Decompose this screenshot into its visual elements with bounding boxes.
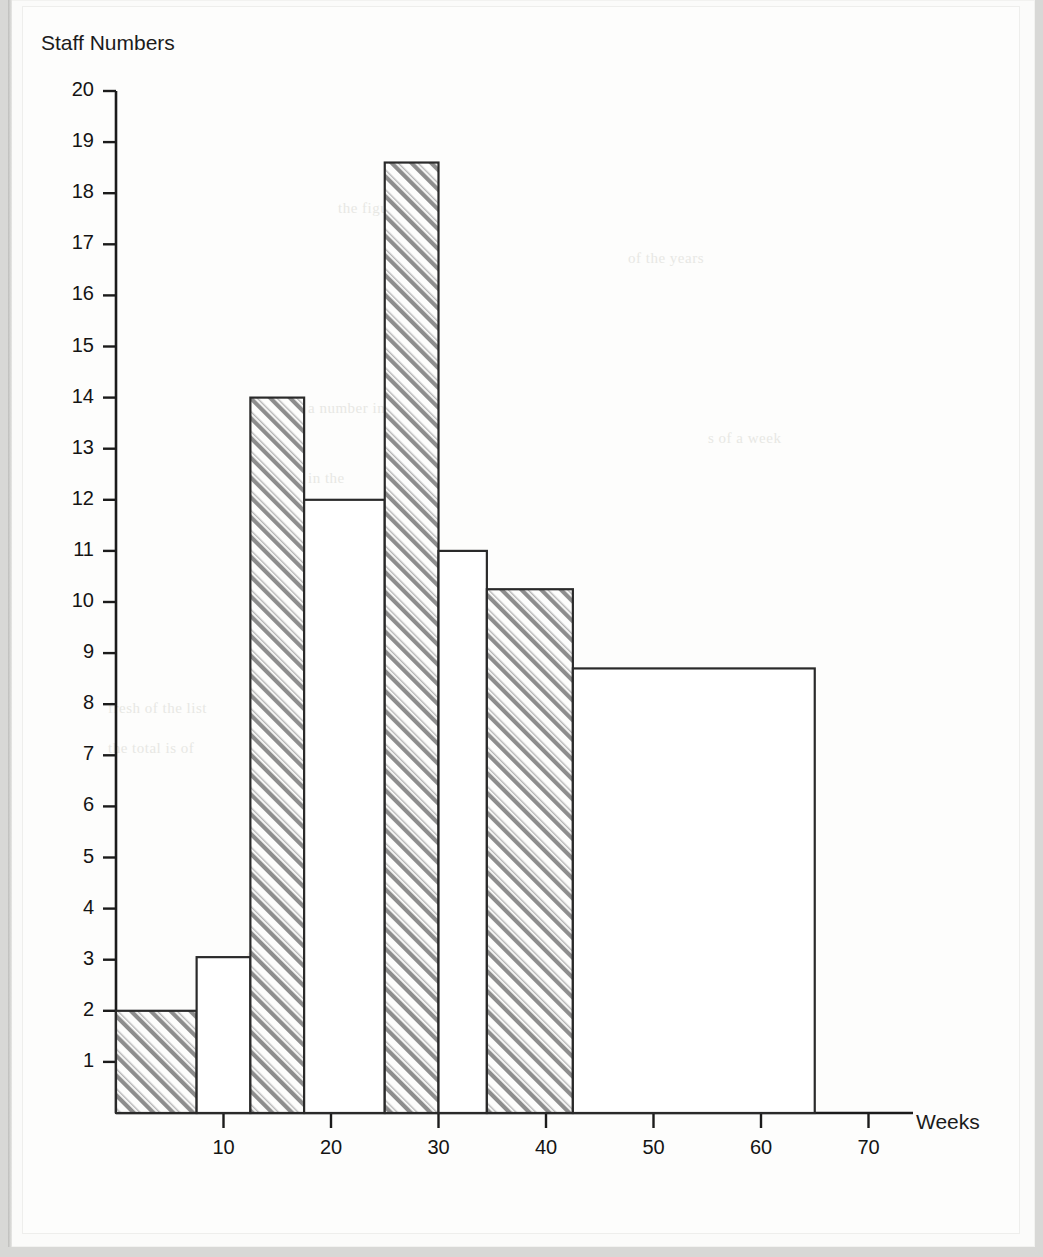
histogram-bar (487, 589, 573, 1113)
histogram-bar (116, 1011, 197, 1113)
histogram-bar (250, 398, 304, 1113)
plot-area (103, 91, 913, 1128)
histogram-bar (385, 163, 439, 1113)
histogram-bar (197, 957, 251, 1113)
histogram-chart (8, 0, 1035, 1247)
histogram-bar (573, 668, 815, 1113)
histogram-bar (439, 551, 487, 1113)
histogram-bar (304, 500, 385, 1113)
scanned-page: the figures inof the yearsa number ins o… (8, 0, 1035, 1247)
